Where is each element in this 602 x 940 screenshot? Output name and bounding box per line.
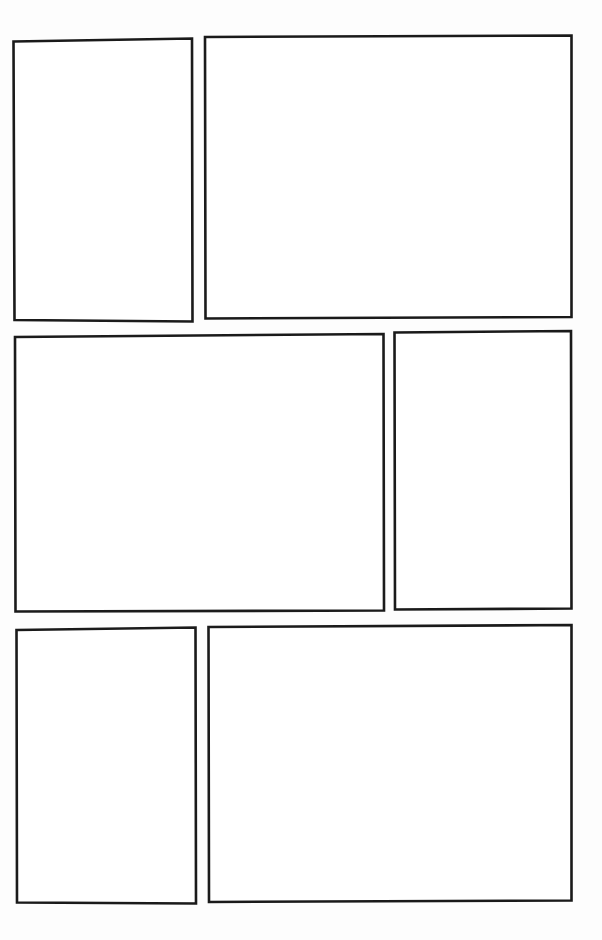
- comic-page: Panel 1 Panel 2 Panel 3 Panel 4 Panel 5 …: [0, 0, 602, 940]
- panel-1[interactable]: [14, 39, 193, 322]
- panel-3[interactable]: [15, 334, 384, 612]
- panel-row-3: [17, 625, 572, 904]
- panel-layout-canvas: [0, 0, 602, 940]
- panel-6[interactable]: [209, 625, 572, 902]
- panel-2[interactable]: [205, 36, 572, 319]
- panel-5[interactable]: [17, 628, 197, 904]
- panel-4[interactable]: [395, 331, 572, 610]
- panel-row-1: [14, 36, 572, 322]
- panel-row-2: [15, 331, 572, 612]
